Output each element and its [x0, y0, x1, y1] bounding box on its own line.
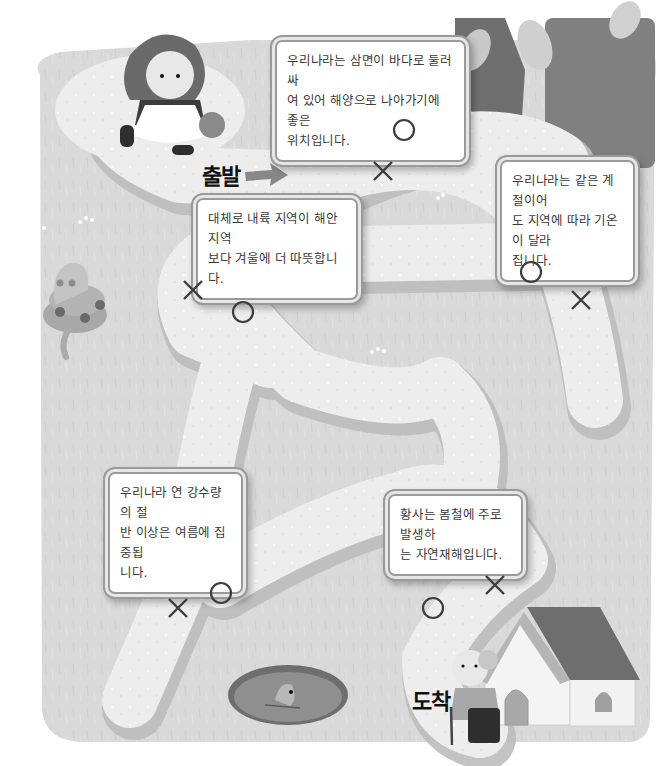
quiz-sign-5: 황사는 봄철에 주로 발생하 는 자연재해입니다. — [388, 494, 523, 576]
circle-mark-icon[interactable] — [208, 580, 234, 606]
start-label: 출발 — [202, 158, 240, 190]
circle-mark-icon[interactable] — [518, 259, 544, 285]
sign-line: 보다 겨울에 더 따뜻합니다. — [208, 249, 346, 289]
sign-line: 위치입니다. — [287, 131, 454, 151]
sign-line: 우리나라 연 강수량의 절 — [120, 483, 231, 523]
sign-line: 우리나라는 삼면이 바다로 둘러싸 — [287, 51, 454, 91]
cross-mark-icon[interactable] — [370, 158, 396, 184]
sign-line: 반 이상은 여름에 집중됩 — [120, 523, 231, 563]
finish-label: 도착 — [412, 683, 450, 715]
quiz-sign-4: 우리나라 연 강수량의 절 반 이상은 여름에 집중됩 니다. — [108, 472, 243, 594]
pond-with-fish-icon — [228, 665, 348, 725]
sign-line: 는 자연재해입니다. — [400, 545, 511, 565]
sign-line: 도 지역에 따라 기온이 달라 — [512, 211, 623, 251]
sign-line: 여 있어 해양으로 나아가기에 좋은 — [287, 91, 454, 131]
circle-mark-icon[interactable] — [391, 117, 417, 143]
cross-mark-icon[interactable] — [180, 277, 206, 303]
sign-line: 우리나라는 같은 계절이어 — [512, 171, 623, 211]
circle-mark-icon[interactable] — [230, 299, 256, 325]
sign-line: 황사는 봄철에 주로 발생하 — [400, 505, 511, 545]
sign-line: 대체로 내륙 지역이 해안 지역 — [208, 209, 346, 249]
cross-mark-icon[interactable] — [165, 595, 191, 621]
cross-mark-icon[interactable] — [568, 287, 594, 313]
cross-mark-icon[interactable] — [482, 572, 508, 598]
quiz-sign-2: 대체로 내륙 지역이 해안 지역 보다 겨울에 더 따뜻합니다. — [196, 198, 358, 300]
circle-mark-icon[interactable] — [420, 595, 446, 621]
maze-scene: 우리나라는 삼면이 바다로 둘러싸 여 있어 해양으로 나아가기에 좋은 위치입… — [0, 0, 670, 766]
quiz-sign-1: 우리나라는 삼면이 바다로 둘러싸 여 있어 해양으로 나아가기에 좋은 위치입… — [275, 40, 466, 162]
